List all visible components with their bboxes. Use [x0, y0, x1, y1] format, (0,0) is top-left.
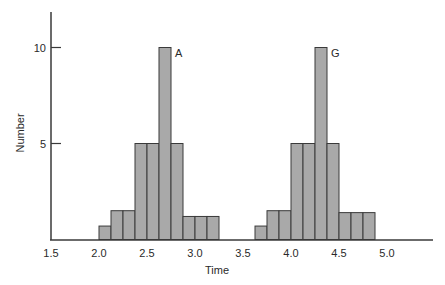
x-tick-label: 3.5 — [235, 247, 250, 259]
histogram-bar-g-5 — [315, 48, 327, 240]
histogram-bar-a-7 — [183, 216, 195, 239]
x-tick-label: 2.0 — [91, 247, 106, 259]
histogram-bar-g-6 — [327, 144, 339, 240]
histogram-bar-a-6 — [171, 144, 183, 240]
histogram-bar-g-4 — [303, 144, 315, 240]
histogram-bar-a-3 — [135, 144, 147, 240]
histogram-bar-g-7 — [339, 213, 351, 240]
histogram-bar-g-0 — [255, 226, 267, 239]
histogram-bar-a-2 — [123, 211, 135, 240]
x-tick-label: 3.0 — [187, 247, 202, 259]
peak-label-a: A — [175, 47, 183, 59]
x-tick-label: 2.5 — [139, 247, 154, 259]
bars-group — [99, 48, 375, 240]
histogram-bar-a-8 — [195, 216, 207, 239]
y-axis-label: Number — [14, 113, 26, 152]
histogram-bar-a-4 — [147, 144, 159, 240]
histogram-chart: AG 510 1.52.02.53.03.54.04.55.0 Time Num… — [0, 0, 445, 285]
histogram-bar-a-0 — [99, 226, 111, 239]
histogram-bar-a-5 — [159, 48, 171, 240]
histogram-bar-g-1 — [267, 211, 279, 240]
x-tick-label: 1.5 — [43, 247, 58, 259]
y-tick-label: 10 — [34, 42, 46, 54]
x-tick-label: 4.5 — [331, 247, 346, 259]
y-axis-ticks: 510 — [34, 42, 61, 150]
histogram-bar-a-1 — [111, 211, 123, 240]
histogram-bar-a-9 — [207, 216, 219, 239]
y-tick-label: 5 — [40, 138, 46, 150]
x-axis-ticks: 1.52.02.53.03.54.04.55.0 — [43, 247, 394, 259]
x-tick-label: 5.0 — [379, 247, 394, 259]
histogram-bar-g-9 — [363, 213, 375, 240]
histogram-bar-g-2 — [279, 211, 291, 240]
x-axis-label: Time — [205, 264, 229, 276]
histogram-bar-g-8 — [351, 213, 363, 240]
histogram-bar-g-3 — [291, 144, 303, 240]
x-tick-label: 4.0 — [283, 247, 298, 259]
peak-label-g: G — [331, 47, 340, 59]
